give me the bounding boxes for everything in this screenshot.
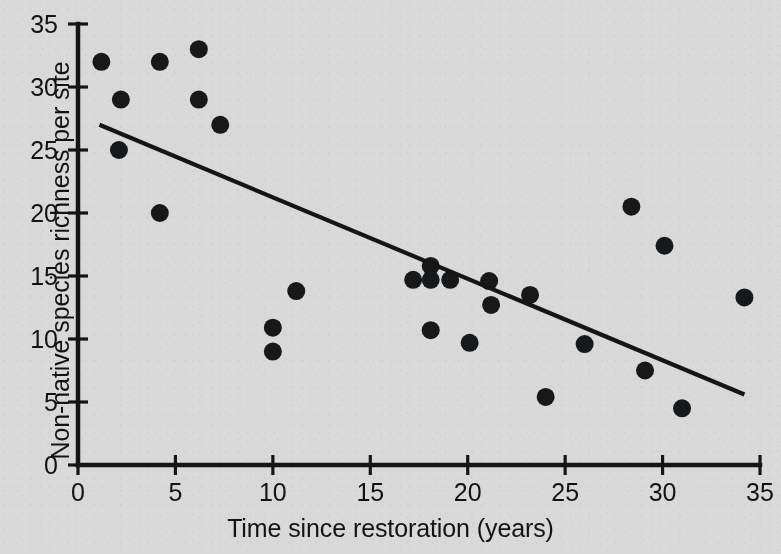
data-point [673, 399, 691, 417]
x-tick-label: 20 [454, 478, 482, 506]
x-tick-label: 25 [551, 478, 579, 506]
data-point [422, 321, 440, 339]
x-tick-label: 30 [649, 478, 677, 506]
data-point [211, 116, 229, 134]
data-point [264, 319, 282, 337]
data-point [151, 204, 169, 222]
data-point [422, 271, 440, 289]
data-point [461, 334, 479, 352]
data-point [735, 288, 753, 306]
y-tick-label: 35 [30, 10, 58, 38]
data-point [151, 53, 169, 71]
x-axis-title: Time since restoration (years) [0, 514, 781, 543]
scatter-plot-figure: 05101520253035 05101520253035 Time since… [0, 0, 781, 554]
data-point [287, 282, 305, 300]
data-points-group [92, 40, 753, 417]
data-point [576, 335, 594, 353]
data-point [190, 91, 208, 109]
data-point [482, 296, 500, 314]
data-point [190, 40, 208, 58]
data-point [404, 271, 422, 289]
data-point [110, 141, 128, 159]
x-tick-label: 15 [356, 478, 384, 506]
x-tick-label: 0 [71, 478, 85, 506]
plot-canvas: 05101520253035 05101520253035 [0, 0, 781, 554]
x-tick-label: 35 [746, 478, 774, 506]
y-axis-title: Non-native species richness per site [46, 61, 75, 461]
data-point [264, 343, 282, 361]
data-point [656, 237, 674, 255]
x-tick-label: 5 [168, 478, 182, 506]
x-tick-label: 10 [259, 478, 287, 506]
data-point [92, 53, 110, 71]
data-point [112, 91, 130, 109]
data-point [622, 198, 640, 216]
data-point [537, 388, 555, 406]
data-point [636, 362, 654, 380]
regression-trend-line [99, 125, 744, 395]
x-axis-tick-labels: 05101520253035 [71, 478, 774, 506]
